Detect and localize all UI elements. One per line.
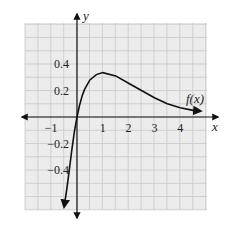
y-tick-label: −0.2 xyxy=(47,137,69,151)
x-tick-label: 1 xyxy=(100,121,106,135)
function-graph: −11234 0.40.2−0.2−0.4 x y f(x) xyxy=(0,0,235,227)
y-tick-label: 0.4 xyxy=(54,57,69,71)
x-tick-label: 4 xyxy=(177,121,183,135)
y-axis-label: y xyxy=(81,8,89,23)
y-tick-label: −0.4 xyxy=(47,163,69,177)
x-tick-label: −1 xyxy=(45,121,58,135)
y-tick-label: 0.2 xyxy=(54,84,69,98)
x-axis-label: x xyxy=(211,119,218,134)
curve-label: f(x) xyxy=(186,91,204,106)
x-tick-label: 2 xyxy=(126,121,132,135)
x-tick-label: 3 xyxy=(151,121,157,135)
